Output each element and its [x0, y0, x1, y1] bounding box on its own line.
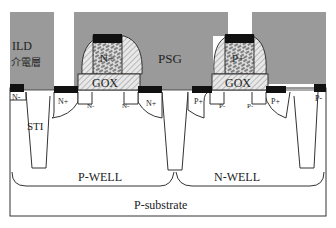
- pmos-drain-label: P+: [271, 97, 280, 106]
- gox-left-label: GOX: [92, 76, 118, 90]
- cmos-cross-section-diagram: ILD 介電層 PSG GOX GOX N+ P+ N- N+ N- N- N+…: [0, 0, 336, 228]
- silicide-right-edge: [314, 84, 326, 92]
- nmos-gate-silicide: [93, 34, 122, 43]
- pmos-ldd-right: [252, 92, 266, 104]
- p-substrate-label: P-substrate: [134, 198, 187, 212]
- silicide-pmos-source: [192, 86, 212, 93]
- nmos-gate-label: N+: [100, 52, 114, 64]
- psg-label: PSG: [158, 51, 182, 66]
- silicide-nmos-drain: [138, 86, 162, 93]
- silicide-left-edge: [10, 84, 24, 92]
- pmos-gate-label: P+: [232, 52, 244, 64]
- nmos-drain-label: N+: [146, 99, 157, 108]
- gox-right-label: GOX: [225, 76, 251, 90]
- pmos-gate-silicide: [225, 34, 254, 43]
- nmos-ldd-right-label: N-: [122, 102, 130, 110]
- pmos-source-label: P+: [194, 97, 203, 106]
- silicide-pmos-drain: [266, 86, 286, 93]
- silicide-nmos-source: [54, 86, 78, 93]
- ild-chinese-label: 介電層: [11, 57, 41, 68]
- p-well-label: P-WELL: [78, 170, 122, 184]
- nmos-source-label: N+: [58, 97, 69, 106]
- nmos-edge-label: N-: [12, 93, 21, 102]
- sti-label: STI: [27, 120, 44, 132]
- pmos-ldd-left-label: P-: [219, 102, 226, 110]
- nmos-ldd-left-label: N-: [87, 102, 95, 110]
- n-well-label: N-WELL: [214, 170, 260, 184]
- ild-label: ILD: [12, 39, 32, 53]
- pmos-edge-label: P-: [315, 94, 322, 103]
- pmos-ldd-right-label: P-: [247, 102, 254, 110]
